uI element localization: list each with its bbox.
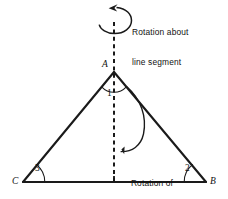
angle-label-1: 1	[107, 88, 112, 100]
triangle-rotation-arrowhead-icon	[115, 146, 125, 155]
axis-rotation-arrowhead-icon	[109, 4, 118, 11]
axis-rotation-loop-arrow	[99, 8, 131, 34]
axis-rotation-caption-line-1: Rotation about	[132, 27, 189, 37]
geometry-figure: A B C 1 2 3 Rotation about line segment …	[0, 0, 228, 199]
vertex-label-b: B	[210, 176, 216, 188]
angle-label-3: 3	[35, 163, 40, 175]
axis-rotation-caption-line-2: line segment	[132, 57, 189, 67]
angle-label-2: 2	[185, 163, 190, 175]
vertex-label-a: A	[102, 59, 108, 71]
triangle-rotation-caption-line-1: Rotation of	[121, 178, 183, 188]
vertex-label-c: C	[12, 176, 18, 188]
triangle-rotation-curved-arrow	[121, 87, 145, 152]
triangle-rotation-caption: Rotation of triangle	[121, 157, 183, 199]
axis-rotation-caption: Rotation about line segment	[132, 6, 189, 88]
